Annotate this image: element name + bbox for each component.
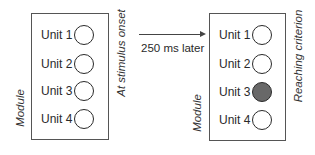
right-arrow-icon <box>200 31 206 37</box>
unit-circle-active <box>252 82 272 102</box>
unit-label: Unit 1 <box>41 28 72 42</box>
unit-circle <box>74 54 94 74</box>
unit-label: Unit 2 <box>219 57 250 71</box>
unit-label: Unit 4 <box>41 112 72 126</box>
state-label-left: At stimulus onset <box>115 9 128 97</box>
unit-label: Unit 3 <box>41 84 72 98</box>
module-label-right: Module <box>191 94 204 132</box>
unit-circle <box>74 81 94 101</box>
unit-circle <box>252 110 272 130</box>
unit-label: Unit 4 <box>219 113 250 127</box>
transition-arrow <box>139 34 201 35</box>
unit-circle <box>74 109 94 129</box>
module-label-left: Module <box>14 89 27 127</box>
unit-label: Unit 1 <box>219 28 250 42</box>
unit-circle <box>252 25 272 45</box>
unit-label: Unit 3 <box>219 85 250 99</box>
unit-circle <box>252 54 272 74</box>
unit-label: Unit 2 <box>41 57 72 71</box>
transition-label: 250 ms later <box>141 42 204 54</box>
unit-circle <box>74 25 94 45</box>
state-label-right: Reaching criterion <box>292 10 305 103</box>
